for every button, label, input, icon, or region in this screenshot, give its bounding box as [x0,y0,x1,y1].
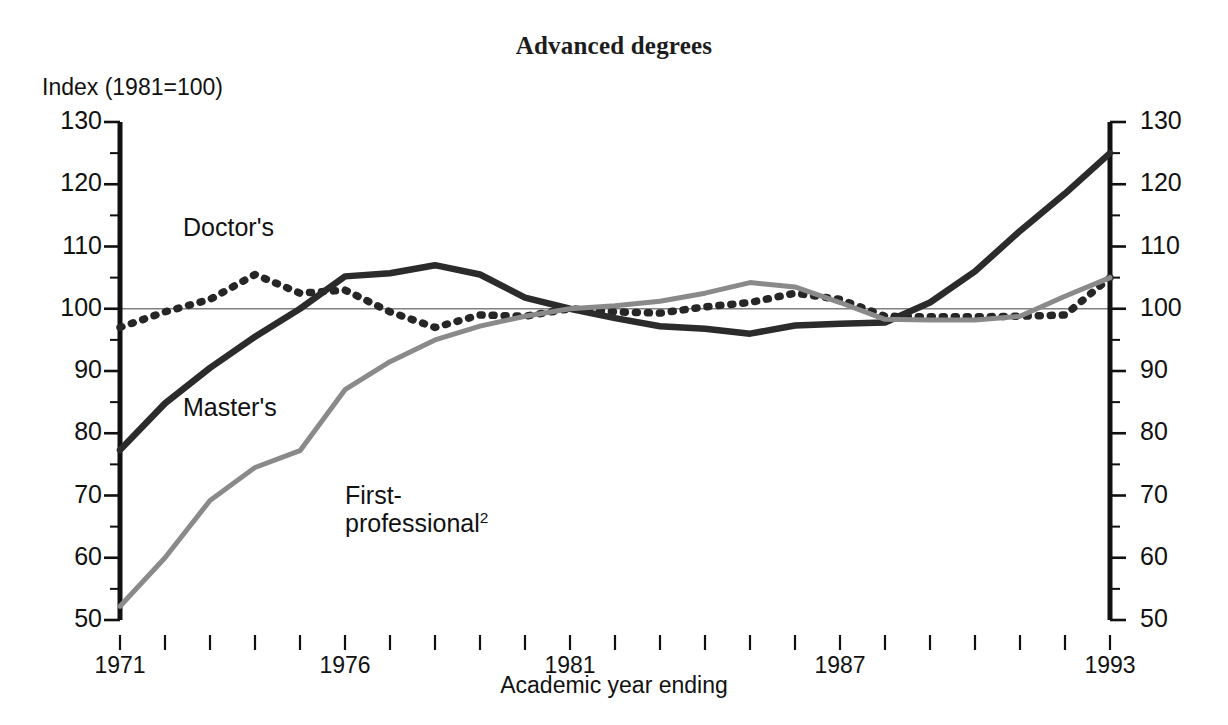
y-tick-label-left: 120 [40,168,102,197]
y-tick-label-right: 130 [1140,106,1202,135]
y-tick-label-right: 80 [1140,417,1202,446]
y-tick-label-left: 100 [40,293,102,322]
x-axis-title: Academic year ending [0,672,1228,699]
series-label-doctors-text: Doctor's [183,213,274,241]
y-tick-label-right: 70 [1140,480,1202,509]
y-tick-label-left: 70 [40,480,102,509]
series-label-doctors: Doctor's [183,213,274,241]
y-tick-label-right: 110 [1140,231,1202,260]
y-tick-label-left: 80 [40,417,102,446]
y-tick-label-left: 130 [40,106,102,135]
y-tick-label-right: 120 [1140,168,1202,197]
series-label-first-professional-line2: professional [345,509,480,537]
y-tick-label-right: 50 [1140,604,1202,633]
y-tick-label-left: 90 [40,355,102,384]
series-label-first-professional: First- professional2 [345,481,488,538]
footnote-marker: 2 [480,509,489,526]
y-tick-label-right: 60 [1140,542,1202,571]
chart-root: Advanced degrees Index (1981=100) 130130… [0,0,1228,725]
y-tick-label-right: 90 [1140,355,1202,384]
y-tick-label-right: 100 [1140,293,1202,322]
series-label-masters: Master's [183,393,277,421]
y-tick-label-left: 50 [40,604,102,633]
y-tick-label-left: 110 [40,231,102,260]
series-label-first-professional-line1: First- [345,481,402,509]
plot-area [0,0,1228,725]
series-label-masters-text: Master's [183,393,277,421]
y-tick-label-left: 60 [40,542,102,571]
